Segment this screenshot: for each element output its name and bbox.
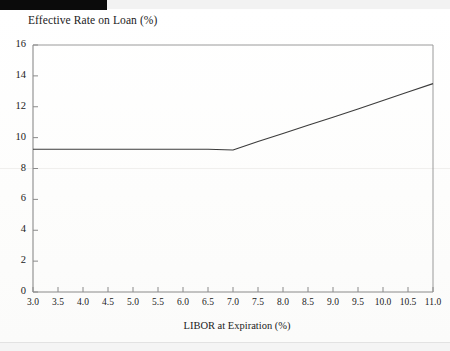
- y-tick-label: 8: [2, 162, 26, 173]
- y-tick-label: 10: [2, 131, 26, 142]
- x-tick-label: 11.0: [416, 297, 450, 307]
- y-tick-label: 0: [2, 285, 26, 296]
- y-tick-label: 12: [2, 100, 26, 111]
- y-tick-label: 2: [2, 254, 26, 265]
- axes-group: [33, 45, 433, 292]
- x-tick-marks: [33, 287, 433, 292]
- y-tick-label: 14: [2, 69, 26, 80]
- y-tick-label: 4: [2, 223, 26, 234]
- data-series-line: [33, 84, 433, 150]
- y-tick-label: 16: [2, 38, 26, 49]
- x-axis-title-text: LIBOR at Expiration (%): [159, 320, 290, 331]
- y-tick-label: 6: [2, 192, 26, 203]
- x-axis-title: LIBOR at Expiration (%): [0, 320, 450, 331]
- y-tick-marks: [33, 45, 38, 292]
